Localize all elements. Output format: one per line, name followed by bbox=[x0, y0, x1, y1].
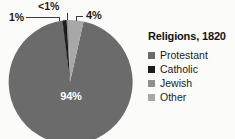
legend-item-label: Other bbox=[160, 92, 186, 103]
callout-other: 4% bbox=[86, 10, 102, 21]
leader-line-other bbox=[76, 16, 83, 21]
legend-swatch-icon bbox=[148, 80, 155, 87]
legend-item-label: Jewish bbox=[160, 78, 192, 89]
chart-title: Religions, 1820 bbox=[148, 30, 235, 42]
pie-chart-figure: 1% <1% 4% 94% Religions, 1820 Protestant… bbox=[0, 0, 235, 139]
legend-swatch-icon bbox=[148, 94, 155, 101]
legend-item-label: Catholic bbox=[160, 64, 198, 75]
legend-list: Protestant Catholic Jewish Other bbox=[148, 49, 235, 104]
callout-jewish: <1% bbox=[38, 1, 59, 12]
legend-item-protestant: Protestant bbox=[148, 49, 235, 62]
legend-swatch-icon bbox=[148, 66, 155, 73]
callout-catholic: 1% bbox=[9, 12, 24, 23]
legend-item-other: Other bbox=[148, 91, 235, 104]
legend-swatch-icon bbox=[148, 52, 155, 59]
legend-item-catholic: Catholic bbox=[148, 63, 235, 76]
legend: Religions, 1820 Protestant Catholic Jewi… bbox=[148, 30, 235, 105]
legend-item-label: Protestant bbox=[160, 50, 208, 61]
leader-line-catholic bbox=[26, 17, 59, 21]
legend-item-jewish: Jewish bbox=[148, 77, 235, 90]
callout-protestant: 94% bbox=[50, 90, 92, 102]
